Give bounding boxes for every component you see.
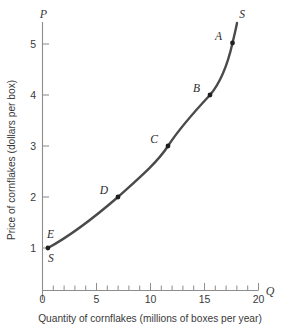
x-tick-label-5: 5 xyxy=(94,293,100,305)
data-point-b xyxy=(208,93,213,98)
y-axis-title: Price of cornflakes (dollars per box) xyxy=(6,80,17,240)
y-tick-label-2: 2 xyxy=(30,191,36,203)
x-axis-title: Quantity of cornflakes (millions of boxe… xyxy=(38,313,262,324)
data-point-label-e: E xyxy=(46,228,54,240)
x-tick-label-15: 15 xyxy=(199,293,211,305)
data-point-d xyxy=(116,195,121,200)
data-point-label-b: B xyxy=(193,82,200,94)
curve-label-top-s: S xyxy=(239,8,245,20)
x-tick-label-20: 20 xyxy=(253,293,265,305)
supply-curve-figure: 5 4 3 2 1 0 xyxy=(0,0,289,330)
data-point-a xyxy=(230,41,235,46)
data-point-label-d: D xyxy=(99,184,109,196)
x-tick-label-0: 0 xyxy=(40,293,46,305)
data-point-label-c: C xyxy=(150,133,158,145)
chart-canvas: 5 4 3 2 1 0 xyxy=(0,0,289,330)
y-axis-symbol-p: P xyxy=(39,7,48,21)
x-tick-label-10: 10 xyxy=(145,293,157,305)
curve-label-bottom-s: S xyxy=(48,252,54,264)
data-point-e xyxy=(46,246,51,251)
data-point-label-a: A xyxy=(214,30,223,42)
data-point-c xyxy=(166,144,171,149)
supply-curve-s xyxy=(48,23,237,248)
y-tick-label-4: 4 xyxy=(30,89,36,101)
y-tick-label-1: 1 xyxy=(30,242,36,254)
y-tick-label-3: 3 xyxy=(30,140,36,152)
x-axis-symbol-q: Q xyxy=(266,284,275,298)
y-tick-label-5: 5 xyxy=(30,38,36,50)
